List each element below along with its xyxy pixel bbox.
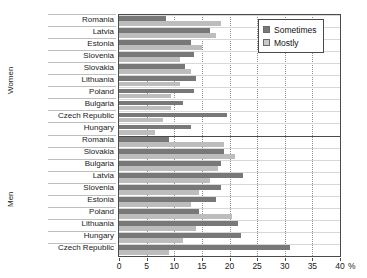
y-axis-labels: RomaniaLatviaEstoniaSloveniaSlovakiaLith… (0, 14, 116, 257)
legend: Sometimes Mostly (258, 19, 324, 53)
y-axis-tick-label: Poland (89, 87, 114, 96)
bar-mostly (119, 214, 232, 219)
x-axis-tick-label-10: 10 (170, 261, 179, 271)
bar-mostly (119, 45, 202, 50)
bar-mostly (119, 190, 199, 195)
y-axis-tick-label: Estonia (87, 195, 114, 204)
y-axis-tick-label: Slovakia (84, 63, 114, 72)
y-axis-tick-label: Romania (82, 135, 114, 144)
bar-mostly (119, 21, 221, 26)
bar-mostly (119, 130, 155, 135)
y-axis-tick-label: Slovenia (83, 51, 114, 60)
x-axis-tick-label-25: 25 (252, 261, 261, 271)
bar-mostly (119, 106, 171, 111)
y-axis-tick-label: Latvia (93, 27, 114, 36)
y-axis-tick (48, 243, 116, 244)
y-axis-tick (48, 26, 116, 27)
x-axis-tick-mark (202, 258, 203, 261)
y-axis-tick (48, 219, 116, 220)
legend-swatch-sometimes (263, 26, 270, 33)
y-axis-tick (48, 98, 116, 99)
bar-mostly (119, 82, 180, 87)
y-axis-tick-label: Czech Republic (58, 111, 114, 120)
y-axis-tick-label: Hungary (84, 123, 114, 132)
x-axis-tick-label-20: 20 (225, 261, 234, 271)
bar-mostly (119, 202, 191, 207)
bar-mostly (119, 69, 191, 74)
y-axis-tick-label: Lithuania (82, 219, 114, 228)
y-axis-tick-label: Slovenia (83, 183, 114, 192)
bar-mostly (119, 118, 163, 123)
bar-mostly (119, 142, 224, 147)
y-axis-tick (48, 171, 116, 172)
bar-mostly (119, 238, 183, 243)
y-axis-tick-label: Bulgaria (85, 99, 114, 108)
y-axis-tick (48, 183, 116, 184)
x-axis-tick-label-5: 5 (144, 261, 149, 271)
y-axis-tick-label: Bulgaria (85, 159, 114, 168)
y-axis-tick-label: Romania (82, 15, 114, 24)
x-axis-tick-label-40: 40 (335, 261, 344, 271)
x-axis-labels: 0510152025303540% (0, 258, 367, 274)
plot-area: Sometimes Mostly (118, 14, 341, 257)
x-axis-tick-mark (312, 258, 313, 261)
bar-mostly (119, 166, 218, 171)
x-axis-tick-mark (174, 258, 175, 261)
bar-mostly (119, 250, 169, 255)
bar-mostly (119, 94, 171, 99)
x-axis-tick-label-35: 35 (308, 261, 317, 271)
bar-mostly (119, 57, 180, 62)
y-axis-tick-label: Poland (89, 207, 114, 216)
y-axis-tick (48, 14, 116, 15)
x-axis-tick-mark (257, 258, 258, 261)
bar-mostly (119, 33, 216, 38)
legend-item-sometimes: Sometimes (263, 23, 317, 36)
x-axis-tick-mark (340, 258, 341, 261)
y-axis-tick (48, 195, 116, 196)
bar-mostly (119, 226, 196, 231)
y-axis-tick (48, 231, 116, 232)
x-axis-tick-label-15: 15 (197, 261, 206, 271)
y-axis-tick-label: Lithuania (82, 75, 114, 84)
y-axis-tick (48, 159, 116, 160)
y-axis-tick (48, 50, 116, 51)
y-axis-tick-label: Estonia (87, 39, 114, 48)
y-axis-tick-label: Hungary (84, 231, 114, 240)
x-axis-tick-mark (285, 258, 286, 261)
x-axis-tick-mark (230, 258, 231, 261)
x-axis-tick-mark (119, 258, 120, 261)
legend-swatch-mostly (263, 39, 270, 46)
y-axis-tick (48, 38, 116, 39)
bar-mostly (119, 154, 235, 159)
x-axis-unit-label: % (348, 261, 356, 271)
y-axis-tick-label: Latvia (93, 171, 114, 180)
panel-label-women: Women (6, 67, 15, 94)
y-axis-tick (48, 62, 116, 63)
y-axis-tick (48, 135, 116, 136)
x-axis-tick-label-0: 0 (117, 261, 122, 271)
x-axis-tick-mark (147, 258, 148, 261)
y-axis-tick (48, 86, 116, 87)
legend-label-sometimes: Sometimes (274, 25, 317, 35)
y-axis-tick (48, 110, 116, 111)
y-axis-tick (48, 207, 116, 208)
legend-label-mostly: Mostly (274, 38, 299, 48)
y-axis-tick (48, 74, 116, 75)
y-axis-tick (48, 147, 116, 148)
y-axis-tick-label: Czech Republic (58, 243, 114, 252)
y-axis-tick-label: Slovakia (84, 147, 114, 156)
x-axis-tick-label-30: 30 (280, 261, 289, 271)
legend-item-mostly: Mostly (263, 36, 317, 49)
chart-figure: RomaniaLatviaEstoniaSloveniaSlovakiaLith… (0, 0, 367, 278)
bar-mostly (119, 178, 210, 183)
panel-label-men: Men (6, 191, 15, 207)
y-axis-tick (48, 122, 116, 123)
